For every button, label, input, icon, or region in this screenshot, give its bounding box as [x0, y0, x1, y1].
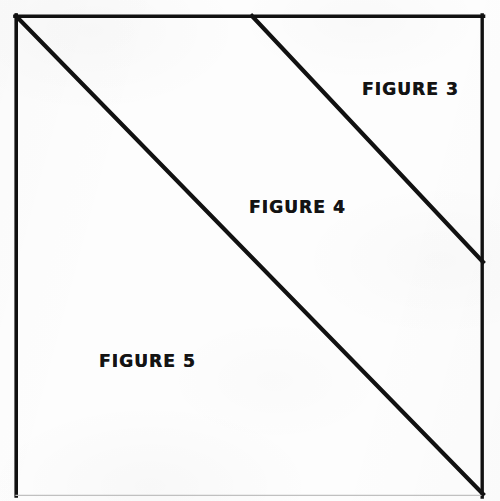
drawing-canvas: FIGURE 3 FIGURE 4 FIGURE 5: [0, 0, 500, 501]
label-figure-4: FIGURE 4: [249, 196, 346, 217]
label-figure-5: FIGURE 5: [99, 350, 196, 371]
label-figure-3: FIGURE 3: [362, 78, 459, 99]
figure-line-art: [0, 0, 500, 501]
upper-diagonal-line: [252, 16, 483, 262]
